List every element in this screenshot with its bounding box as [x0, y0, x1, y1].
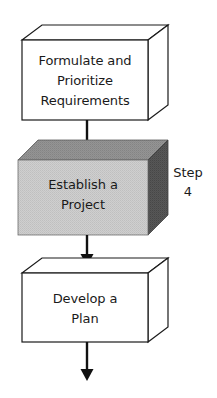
- node-formulate-requirements[interactable]: Formulate and Prioritize Requirements: [22, 25, 168, 120]
- node-develop-top-face: [22, 258, 168, 273]
- node-establish-top-face: [18, 140, 168, 160]
- node-formulate-label-line-3: Requirements: [40, 93, 130, 108]
- connector-develop-outgoing: [81, 342, 94, 381]
- node-formulate-top-face: [22, 25, 168, 40]
- node-establish-label-line-1: Establish a: [48, 177, 118, 192]
- node-formulate-label-line-2: Prioritize: [57, 73, 113, 88]
- node-establish-project[interactable]: Establish a Project: [18, 140, 168, 235]
- node-develop-label-line-2: Plan: [71, 311, 98, 326]
- annotation-step-4: Step 4: [173, 165, 203, 199]
- arrow-3-head: [81, 369, 94, 381]
- step-annotation-line-1: Step: [173, 165, 203, 180]
- step-annotation-line-2: 4: [184, 184, 192, 199]
- node-develop-plan[interactable]: Develop a Plan: [22, 258, 168, 342]
- node-develop-label-line-1: Develop a: [53, 291, 118, 306]
- flowchart-svg: Formulate and Prioritize Requirements Es…: [0, 0, 217, 398]
- node-develop-front-face: [22, 273, 148, 342]
- node-establish-label-line-2: Project: [61, 197, 105, 212]
- node-develop-side-face: [148, 258, 168, 342]
- diagram-canvas: Formulate and Prioritize Requirements Es…: [0, 0, 217, 398]
- node-formulate-side-face: [148, 25, 168, 120]
- node-formulate-label-line-1: Formulate and: [39, 53, 132, 68]
